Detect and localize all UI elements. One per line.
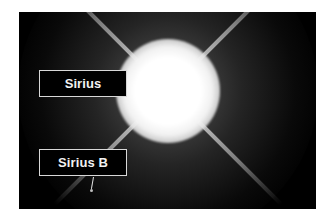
sirius-glow xyxy=(116,39,220,143)
sirius-b-label: Sirius B xyxy=(39,149,127,176)
sirius-b-star xyxy=(90,189,93,192)
sirius-label: Sirius xyxy=(39,70,127,97)
star-photograph: Sirius Sirius B xyxy=(19,12,316,209)
